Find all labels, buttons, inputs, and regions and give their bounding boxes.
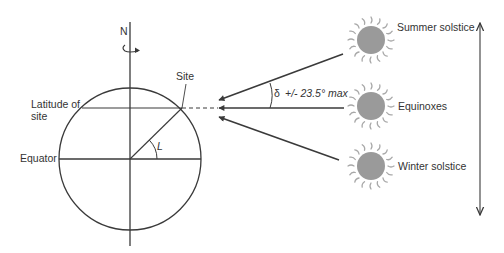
diagram-svg: N Site Latitude of site Equator L δ +/- … — [0, 0, 504, 253]
north-label: N — [120, 25, 128, 37]
summer-solstice-label: Summer solstice — [397, 21, 475, 33]
equinoxes-label: Equinoxes — [398, 100, 447, 112]
sun-icon-equinox — [348, 83, 394, 129]
latitude-angle-arc — [149, 140, 157, 159]
diagram-canvas: N Site Latitude of site Equator L δ +/- … — [0, 0, 504, 253]
equator-label: Equator — [20, 152, 57, 164]
sun-icon-winter — [348, 143, 394, 189]
declination-angle-arc — [270, 83, 272, 108]
latitude-label-line1: Latitude of — [31, 98, 80, 110]
sun-icon-summer — [348, 17, 394, 63]
winter-ray-arrow — [219, 117, 339, 160]
winter-solstice-label: Winter solstice — [398, 160, 466, 172]
site-leader-line — [182, 84, 186, 108]
latitude-angle-label: L — [157, 140, 163, 152]
site-label: Site — [176, 70, 194, 82]
declination-label: +/- 23.5° max — [285, 87, 349, 99]
latitude-label-line2: site — [31, 110, 48, 122]
earth-globe — [59, 22, 218, 246]
rotation-arrow-icon — [123, 45, 140, 53]
sun-ray-arrows — [219, 54, 344, 160]
declination-symbol: δ — [274, 87, 280, 99]
